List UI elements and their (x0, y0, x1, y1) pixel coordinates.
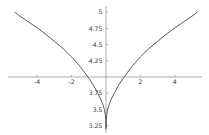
y-tick-label: 3.75 (89, 89, 103, 96)
x-tick-label: -4 (34, 78, 40, 85)
x-tick-label: 4 (173, 78, 177, 85)
y-tick-label: 4.5 (93, 41, 103, 48)
y-tick-label: 4.75 (89, 25, 103, 32)
plot-container: -4-224 3.253.53.754.254.54.755 (0, 0, 209, 135)
x-tick-labels: -4-224 (34, 78, 177, 85)
y-tick-label: 3.5 (93, 106, 103, 113)
x-tick-label: -2 (69, 78, 75, 85)
y-tick-labels: 3.253.53.754.254.54.755 (89, 8, 103, 128)
y-tick-label: 3.25 (89, 122, 103, 129)
function-plot: -4-224 3.253.53.754.254.54.755 (0, 0, 209, 135)
x-tick-label: 2 (138, 78, 142, 85)
y-tick-label: 5 (99, 8, 103, 15)
y-tick-label: 4.25 (89, 57, 103, 64)
